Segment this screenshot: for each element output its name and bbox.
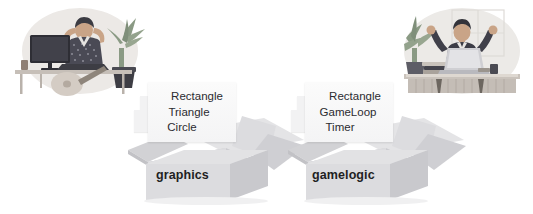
module-name: Rectangle [171,90,223,102]
package-label-graphics: graphics [156,168,209,182]
module-card-graphics: Rectangle Triangle Circle [148,82,236,142]
illustration-person-relaxing [12,4,152,96]
illustration-person-celebrating [392,4,532,96]
module-card-gamelogic: Rectangle GameLoop Timer [305,82,393,142]
module-name: Timer [326,121,355,133]
module-name: Triangle [168,106,209,118]
diagram-canvas: Rectangle Triangle Circle Rectangle Game… [0,0,533,214]
module-name: Circle [167,121,196,133]
module-name: Rectangle [329,90,381,102]
package-label-gamelogic: gamelogic [312,168,375,182]
module-name: GameLoop [320,106,377,118]
